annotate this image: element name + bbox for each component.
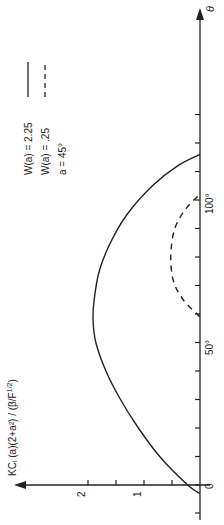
tick-label-0: 0 <box>204 483 215 489</box>
legend-label-solid: W(a) = 2.25 <box>23 122 34 175</box>
chart-svg: θ 0 50° 100° 1 2 KCᵢ (a)(2+a²) / (β/F1/2… <box>0 0 224 525</box>
chart-container: θ 0 50° 100° 1 2 KCᵢ (a)(2+a²) / (β/F1/2… <box>0 0 224 525</box>
legend: W(a) = 2.25 W(a) = .25 a = 45° <box>23 62 68 175</box>
tick-label-1: 1 <box>132 491 143 497</box>
tick-label-2: 2 <box>76 491 87 497</box>
value-axis-arrow-icon <box>14 481 26 489</box>
theta-axis <box>195 8 204 520</box>
series-w-0-25-curve <box>171 194 200 317</box>
series-w-2-25-curve <box>93 154 200 493</box>
tick-label-100: 100° <box>204 193 215 214</box>
tick-label-50: 50° <box>204 340 215 355</box>
legend-label-dashed: W(a) = .25 <box>40 128 51 175</box>
value-axis <box>14 480 210 489</box>
legend-label-angle: a = 45° <box>57 143 68 175</box>
theta-axis-arrow-icon <box>196 8 204 20</box>
value-axis-label: KCᵢ (a)(2+a²) / (β/F1/2) <box>6 379 18 476</box>
theta-axis-label: θ <box>204 6 216 12</box>
